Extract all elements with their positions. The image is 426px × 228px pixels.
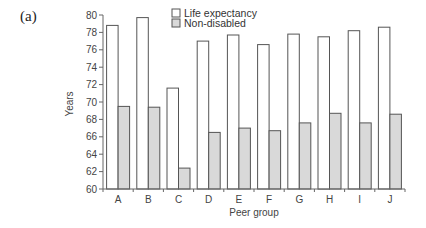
legend: Life expectancyNon-disabled (172, 7, 258, 29)
y-axis-title: Years (64, 91, 75, 116)
y-tick-label: 66 (86, 131, 98, 142)
bar-life-expectancy-F (258, 45, 270, 189)
bar-non-disabled-F (269, 131, 281, 189)
x-tick-label: A (115, 194, 122, 205)
bar-non-disabled-J (390, 114, 402, 189)
y-tick-label: 76 (86, 44, 98, 55)
bar-non-disabled-E (239, 128, 251, 189)
bar-life-expectancy-H (318, 37, 330, 189)
bar-life-expectancy-E (227, 35, 239, 189)
x-tick-label: G (295, 194, 303, 205)
bar-life-expectancy-I (348, 31, 360, 189)
bar-non-disabled-I (360, 123, 372, 189)
legend-label: Non-disabled (184, 17, 246, 29)
bar-non-disabled-H (330, 113, 342, 189)
legend-swatch-non-disabled (172, 19, 180, 27)
x-tick-label: B (145, 194, 152, 205)
x-axis-title: Peer group (229, 207, 279, 218)
bar-non-disabled-D (209, 132, 221, 189)
bar-life-expectancy-D (197, 41, 209, 189)
x-tick-label: H (326, 194, 333, 205)
bar-non-disabled-G (299, 123, 311, 189)
bar-life-expectancy-C (167, 88, 179, 189)
bar-life-expectancy-J (378, 27, 390, 189)
bar-life-expectancy-G (288, 34, 300, 189)
legend-swatch-life-expectancy (172, 9, 180, 17)
x-tick-label: F (266, 194, 272, 205)
y-tick-label: 70 (86, 97, 98, 108)
y-tick-label: 74 (86, 62, 98, 73)
x-tick-label: E (236, 194, 243, 205)
x-tick-label: J (387, 194, 392, 205)
y-tick-label: 60 (86, 184, 98, 195)
bar-life-expectancy-B (137, 18, 149, 189)
bar-life-expectancy-A (107, 25, 119, 189)
bar-non-disabled-C (179, 168, 191, 189)
bar-non-disabled-A (118, 106, 130, 189)
y-tick-label: 68 (86, 114, 98, 125)
x-tick-label: C (175, 194, 182, 205)
bar-non-disabled-B (148, 107, 160, 189)
x-tick-label: D (205, 194, 212, 205)
bars-group (107, 18, 402, 190)
x-tick-label: I (358, 194, 361, 205)
y-tick-label: 64 (86, 149, 98, 160)
y-tick-label: 72 (86, 79, 98, 90)
y-tick-label: 62 (86, 166, 98, 177)
bar-chart: 6062646668707274767880ABCDEFGHIJPeer gro… (0, 0, 426, 228)
y-tick-label: 80 (86, 10, 98, 21)
y-tick-label: 78 (86, 27, 98, 38)
